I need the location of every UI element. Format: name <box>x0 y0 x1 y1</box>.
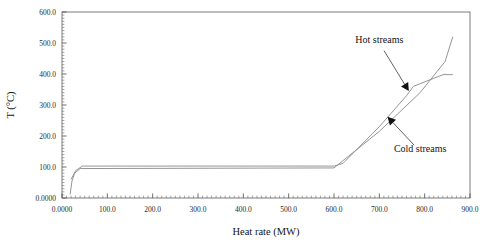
x-tick-label: 400.0 <box>235 205 252 214</box>
y-tick-label: 100.0 <box>39 163 56 172</box>
x-axis-title: Heat rate (MW) <box>232 226 300 238</box>
contour-plot-svg: 0.0000100.0200.0300.0400.0500.0600.0 0.0… <box>0 0 496 242</box>
y-tick-label: 200.0 <box>39 132 56 141</box>
x-axis-tick-labels: 0.0000100.0200.0300.0400.0500.0600.0700.… <box>52 205 479 214</box>
x-tick-label: 700.0 <box>371 205 388 214</box>
x-tick-label: 100.0 <box>99 205 116 214</box>
annotation-label: Cold streams <box>394 143 447 154</box>
annotation-arrow-icon <box>401 82 409 91</box>
x-axis-ticks <box>62 194 470 199</box>
y-tick-label: 600.0 <box>39 8 56 17</box>
x-tick-label: 600.0 <box>326 205 343 214</box>
y-axis-tick-labels: 0.0000100.0200.0300.0400.0500.0600.0 <box>35 8 56 203</box>
annotation-leader-line <box>384 51 405 85</box>
x-tick-label: 200.0 <box>144 205 161 214</box>
y-tick-label: 400.0 <box>39 70 56 79</box>
y-tick-label: 500.0 <box>39 39 56 48</box>
data-series-group <box>70 37 453 194</box>
y-tick-label: 300.0 <box>39 101 56 110</box>
annotation-label: Hot streams <box>355 34 403 45</box>
annotation-group: Hot streamsCold streams <box>355 34 446 154</box>
y-axis-ticks <box>62 12 67 198</box>
series-cold-streams <box>70 37 453 194</box>
x-tick-label: 300.0 <box>190 205 207 214</box>
series-hot-streams <box>71 74 453 179</box>
x-tick-label: 900.0 <box>462 205 479 214</box>
y-tick-label: 0.0000 <box>35 194 56 203</box>
x-axis-group: 0.0000100.0200.0300.0400.0500.0600.0700.… <box>52 194 479 215</box>
x-tick-label: 0.0000 <box>52 205 73 214</box>
x-tick-label: 500.0 <box>280 205 297 214</box>
plot-frame <box>62 12 470 198</box>
y-axis-title: T (°C) <box>5 91 17 119</box>
x-tick-label: 800.0 <box>416 205 433 214</box>
chart-container: 0.0000100.0200.0300.0400.0500.0600.0 0.0… <box>0 0 496 242</box>
